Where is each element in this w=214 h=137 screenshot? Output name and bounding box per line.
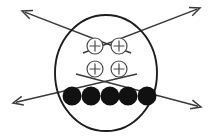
particle-3 [101, 87, 120, 106]
diagram-canvas [0, 0, 214, 137]
charge-top-right [111, 38, 127, 54]
particle-4 [119, 87, 138, 106]
particle-5 [138, 87, 157, 106]
particle-1 [63, 87, 82, 106]
charge-top-left [87, 38, 103, 54]
particle-group [63, 87, 157, 106]
physics-diagram [0, 0, 214, 137]
boundary-circle [55, 15, 157, 131]
charge-bottom-left [87, 61, 103, 77]
charge-bottom-right [111, 61, 127, 77]
particle-2 [82, 87, 101, 106]
